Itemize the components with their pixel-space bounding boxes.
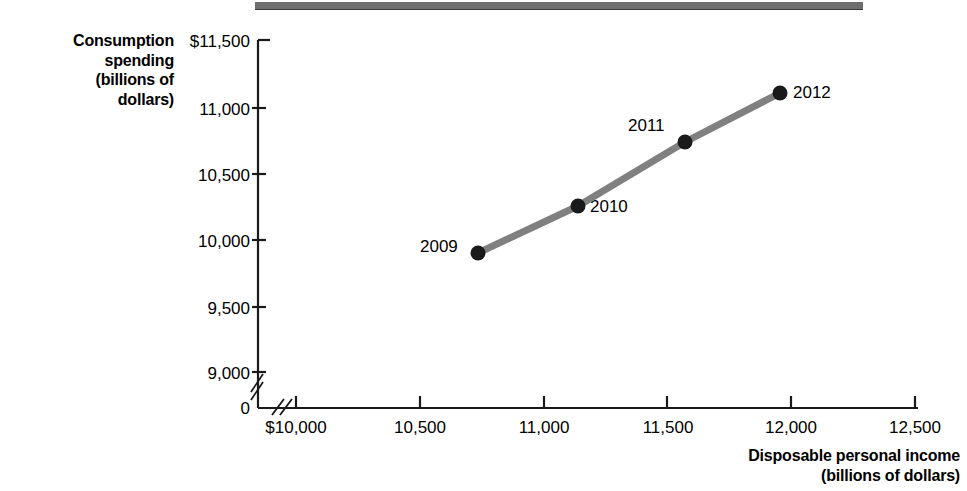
data-point-2009 bbox=[471, 246, 486, 261]
data-point-2011 bbox=[678, 135, 693, 150]
data-point-2012 bbox=[773, 86, 788, 101]
plot-area bbox=[0, 0, 967, 491]
chart-figure: Consumption spending (billions of dollar… bbox=[0, 0, 967, 491]
data-point-2010 bbox=[571, 199, 586, 214]
y-axis-ticks bbox=[252, 40, 270, 372]
x-axis-ticks bbox=[296, 396, 915, 408]
consumption-function-line bbox=[478, 93, 780, 253]
